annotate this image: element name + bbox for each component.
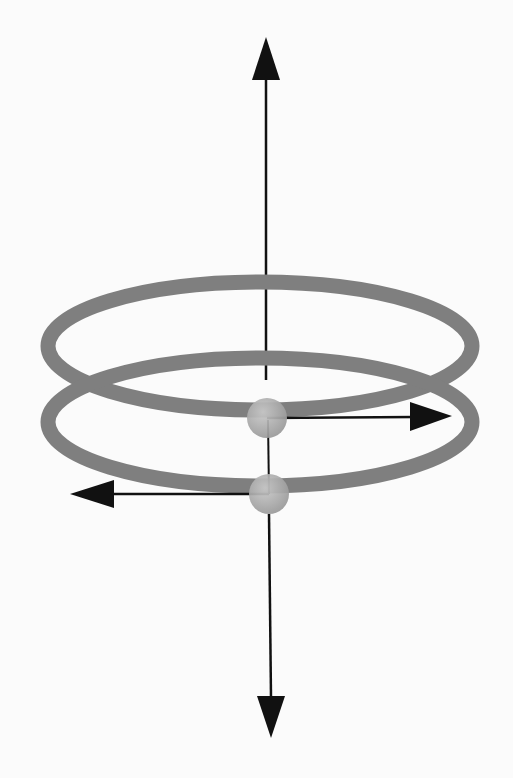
axis-down-arrowhead-icon bbox=[257, 696, 285, 738]
lower-sphere bbox=[249, 474, 289, 514]
axis-down-arrow-shaft bbox=[269, 514, 271, 698]
right-arrow-shaft bbox=[267, 417, 415, 418]
upper-ring bbox=[48, 282, 472, 410]
axis-up-arrowhead-icon bbox=[252, 37, 280, 80]
right-arrowhead-icon bbox=[410, 402, 452, 431]
magnetic-rings-diagram bbox=[0, 0, 513, 778]
left-arrowhead-icon bbox=[70, 480, 114, 508]
upper-sphere bbox=[247, 398, 287, 438]
